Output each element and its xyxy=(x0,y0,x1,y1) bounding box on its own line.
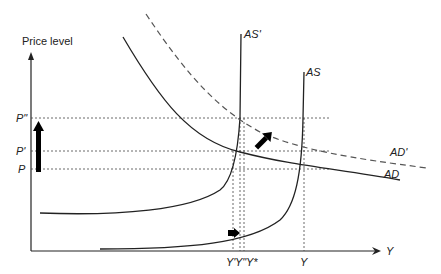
curve-label-as: AS xyxy=(305,66,321,78)
as-prime-curve xyxy=(40,34,241,214)
price-label-p-prime: P' xyxy=(16,145,26,157)
ad-shift-arrow-icon xyxy=(252,128,276,152)
output-label-y-star: Y* xyxy=(246,256,258,268)
as-curve xyxy=(100,72,304,249)
ad-prime-curve xyxy=(146,14,427,168)
axes xyxy=(28,52,381,255)
curve-label-as-prime: AS' xyxy=(243,28,262,40)
price-label-p: P xyxy=(18,163,26,175)
curve-label-ad: AD xyxy=(383,168,399,180)
price-increase-arrow-icon xyxy=(33,121,44,172)
output-label-y-full: Y xyxy=(300,256,308,268)
ad-curve xyxy=(123,37,400,180)
curve-label-ad-prime: AD' xyxy=(389,146,408,158)
price-label-p-double: P" xyxy=(16,112,28,124)
y-axis-arrow-icon xyxy=(28,52,34,60)
y-axis-title: Price level xyxy=(22,35,73,47)
x-axis-label: Y xyxy=(386,245,394,257)
output-shift-arrow-icon xyxy=(228,228,240,238)
as-ad-diagram: Price level Y P" P' P Y' Y" Y* Y AS' AS … xyxy=(0,0,441,274)
